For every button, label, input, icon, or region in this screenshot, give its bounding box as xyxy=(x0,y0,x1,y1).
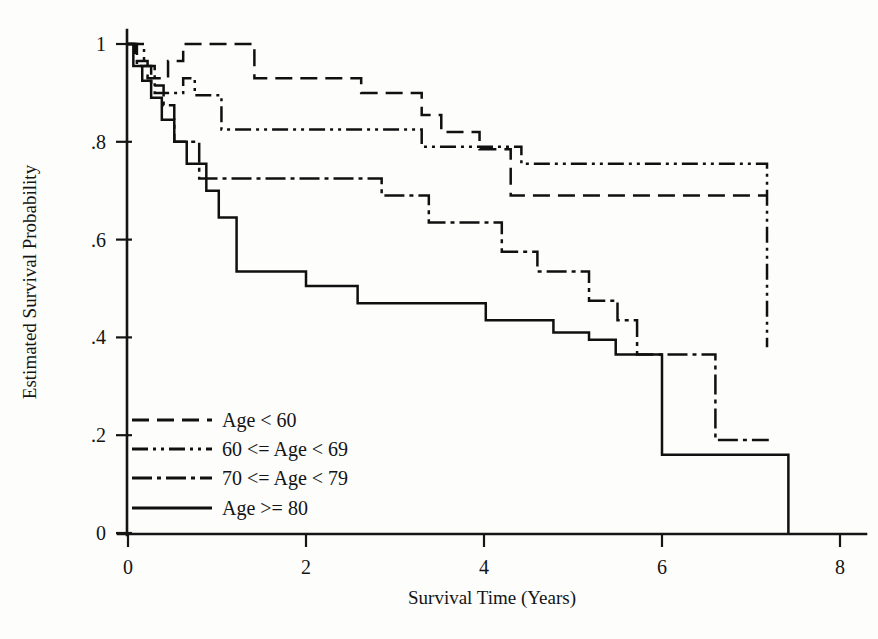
x-tick-label: 8 xyxy=(835,556,845,578)
x-axis-ticks: 02468 xyxy=(123,534,845,578)
legend-label-1: Age < 60 xyxy=(222,409,297,432)
legend-label-4: Age >= 80 xyxy=(222,497,308,520)
legend-label-3: 70 <= Age < 79 xyxy=(222,467,348,490)
survival-curve-1 xyxy=(128,44,767,196)
y-tick-label: 0 xyxy=(96,522,106,544)
x-axis-title: Survival Time (Years) xyxy=(408,587,576,609)
x-tick-label: 2 xyxy=(301,556,311,578)
legend-label-2: 60 <= Age < 69 xyxy=(222,438,348,461)
x-tick-label: 6 xyxy=(657,556,667,578)
y-axis-title: Estimated Survival Probability xyxy=(19,164,40,399)
x-tick-label: 0 xyxy=(123,556,133,578)
y-tick-label: .6 xyxy=(91,229,106,251)
survival-chart-figure: 02468 0.2.4.6.81 Age < 6060 <= Age < 697… xyxy=(0,0,878,639)
y-tick-label: .4 xyxy=(91,326,106,348)
survival-curve-3 xyxy=(128,44,769,440)
x-tick-label: 4 xyxy=(479,556,489,578)
legend: Age < 6060 <= Age < 6970 <= Age < 79Age … xyxy=(132,409,348,520)
chart-canvas: 02468 0.2.4.6.81 Age < 6060 <= Age < 697… xyxy=(0,0,878,639)
y-tick-label: .2 xyxy=(91,424,106,446)
y-tick-label: .8 xyxy=(91,131,106,153)
y-tick-label: 1 xyxy=(96,33,106,55)
